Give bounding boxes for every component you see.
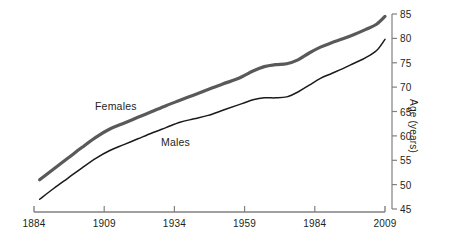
x-tick-label: 1934 <box>163 218 186 229</box>
series-label-females: Females <box>95 100 137 112</box>
y-tick-label: 80 <box>400 33 412 44</box>
y-tick-label: 45 <box>400 204 412 215</box>
x-tick-label: 1984 <box>303 218 326 229</box>
series-line-females <box>40 16 385 179</box>
x-tick-label: 1884 <box>22 218 45 229</box>
chart-plot-area <box>0 0 457 252</box>
x-tick-label: 1959 <box>233 218 256 229</box>
x-axis-ticks <box>104 206 315 212</box>
y-axis-ticks <box>392 14 397 209</box>
chart-series-lines <box>40 16 385 199</box>
y-tick-label: 50 <box>400 179 412 190</box>
y-tick-label: 75 <box>400 57 412 68</box>
life-expectancy-chart: 1884 1909 1934 1959 1984 2009 45 50 55 6… <box>0 0 457 252</box>
series-line-males <box>40 39 385 199</box>
x-tick-label: 2009 <box>373 218 396 229</box>
y-tick-label: 55 <box>400 155 412 166</box>
y-axis-title: Age (years) <box>408 99 419 153</box>
y-tick-label: 70 <box>400 82 412 93</box>
x-tick-label: 1909 <box>93 218 116 229</box>
y-tick-label: 85 <box>400 9 412 20</box>
series-label-males: Males <box>161 136 190 148</box>
